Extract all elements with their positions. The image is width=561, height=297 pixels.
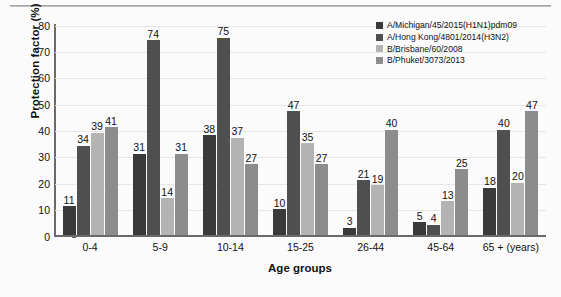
- legend-swatch-icon: [376, 57, 383, 64]
- bar-value-label: 47: [526, 100, 538, 111]
- bar[interactable]: 38: [203, 135, 216, 235]
- bar-value-label: 5: [417, 211, 423, 222]
- bar-value-label: 27: [316, 153, 328, 164]
- bar-value-label: 13: [442, 190, 454, 201]
- bar[interactable]: 3: [343, 228, 356, 236]
- bar-slot: 3: [343, 24, 356, 235]
- x-axis-line: [54, 235, 546, 237]
- x-tick-label: 15-25: [265, 241, 335, 253]
- bar[interactable]: 75: [217, 38, 230, 236]
- y-tick-label: 20: [24, 179, 50, 190]
- x-tick-label: 65 + (years): [476, 241, 546, 253]
- bar-value-label: 75: [218, 26, 230, 37]
- bar-value-label: 47: [288, 100, 300, 111]
- bar-slot: 34: [77, 24, 90, 235]
- bar-slot: 47: [287, 24, 300, 235]
- bar[interactable]: 40: [497, 130, 510, 236]
- bar-slot: 35: [301, 24, 314, 235]
- bar-group: 38753727: [195, 24, 265, 235]
- bar[interactable]: 35: [301, 143, 314, 235]
- bar[interactable]: 18: [483, 188, 496, 235]
- bar-slot: 47: [525, 24, 538, 235]
- x-tick-label: 10-14: [195, 241, 265, 253]
- legend-item[interactable]: A/Michigan/45/2015(H1N1)pdm09: [376, 21, 517, 30]
- bar[interactable]: 21: [357, 180, 370, 235]
- bar[interactable]: 47: [525, 111, 538, 235]
- bar-slot: 27: [315, 24, 328, 235]
- bar-slot: 31: [175, 24, 188, 235]
- bar[interactable]: 37: [231, 138, 244, 236]
- bar-value-label: 40: [386, 118, 398, 129]
- bar-value-label: 31: [133, 142, 145, 153]
- bar-value-label: 74: [147, 29, 159, 40]
- y-tick-label: 80: [24, 20, 50, 31]
- x-tick-label: 0-4: [55, 241, 125, 253]
- bar-group: 11343941: [55, 24, 125, 235]
- bar-value-label: 38: [204, 124, 216, 135]
- legend-swatch-icon: [376, 34, 383, 41]
- bar-slot: 11: [63, 24, 76, 235]
- bar-value-label: 21: [358, 169, 370, 180]
- bar[interactable]: 11: [63, 206, 76, 235]
- bar-slot: 39: [91, 24, 104, 235]
- bar-slot: 14: [161, 24, 174, 235]
- chart-legend: A/Michigan/45/2015(H1N1)pdm09A/Hong Kong…: [376, 21, 517, 65]
- y-tick-label: 40: [24, 126, 50, 137]
- bar-value-label: 40: [498, 118, 510, 129]
- bar-value-label: 34: [77, 134, 89, 145]
- bar[interactable]: 74: [147, 40, 160, 235]
- bar-value-label: 31: [175, 142, 187, 153]
- x-axis-label: Age groups: [54, 262, 546, 274]
- bar-value-label: 11: [64, 195, 75, 206]
- bar-value-label: 27: [246, 153, 258, 164]
- bar[interactable]: 27: [315, 164, 328, 235]
- legend-item[interactable]: B/Brisbane/60/2008: [376, 45, 517, 54]
- legend-swatch-icon: [376, 45, 383, 52]
- bar-value-label: 35: [302, 132, 314, 143]
- bar-value-label: 10: [274, 198, 286, 209]
- bar[interactable]: 41: [105, 127, 118, 235]
- y-axis-ticks: 01020304050607080: [22, 0, 50, 297]
- legend-item[interactable]: B/Phuket/3073/2013: [376, 56, 517, 65]
- bar[interactable]: 13: [441, 201, 454, 235]
- chart-figure: Protection factor (%) 01020304050607080 …: [0, 0, 561, 297]
- bar[interactable]: 39: [91, 133, 104, 236]
- bar[interactable]: 31: [133, 154, 146, 236]
- bar-value-label: 19: [372, 174, 384, 185]
- bar-value-label: 18: [484, 176, 496, 187]
- bar[interactable]: 4: [427, 225, 440, 236]
- legend-label: A/Michigan/45/2015(H1N1)pdm09: [387, 21, 517, 30]
- legend-swatch-icon: [376, 22, 383, 29]
- bar-slot: 74: [147, 24, 160, 235]
- bar[interactable]: 10: [273, 209, 286, 235]
- bar-value-label: 20: [512, 171, 524, 182]
- bar-value-label: 41: [105, 116, 117, 127]
- bar-value-label: 14: [161, 187, 173, 198]
- bar[interactable]: 27: [245, 164, 258, 235]
- x-tick-label: 26-44: [336, 241, 406, 253]
- bar-slot: 38: [203, 24, 216, 235]
- bar[interactable]: 31: [175, 154, 188, 236]
- bar[interactable]: 20: [511, 183, 524, 236]
- legend-label: B/Brisbane/60/2008: [387, 45, 463, 54]
- bar-slot: 41: [105, 24, 118, 235]
- bar[interactable]: 5: [413, 222, 426, 235]
- bar-slot: 27: [245, 24, 258, 235]
- bar-value-label: 39: [91, 121, 103, 132]
- bar-value-label: 4: [431, 213, 437, 224]
- y-tick-label: 70: [24, 47, 50, 58]
- legend-label: A/Hong Kong/4801/2014(H3N2): [387, 33, 509, 42]
- bar[interactable]: 14: [161, 198, 174, 235]
- y-tick-label: 50: [24, 99, 50, 110]
- legend-item[interactable]: A/Hong Kong/4801/2014(H3N2): [376, 33, 517, 42]
- x-axis-tick-labels: 0-45-910-1415-2526-4445-6465 + (years): [55, 241, 546, 253]
- bar-group: 10473527: [265, 24, 335, 235]
- y-tick-label: 60: [24, 73, 50, 84]
- bar[interactable]: 47: [287, 111, 300, 235]
- bar[interactable]: 34: [77, 146, 90, 236]
- bar[interactable]: 25: [455, 169, 468, 235]
- bar[interactable]: 40: [385, 130, 398, 236]
- bar[interactable]: 19: [371, 185, 384, 235]
- bar-slot: 37: [231, 24, 244, 235]
- bar-slot: 10: [273, 24, 286, 235]
